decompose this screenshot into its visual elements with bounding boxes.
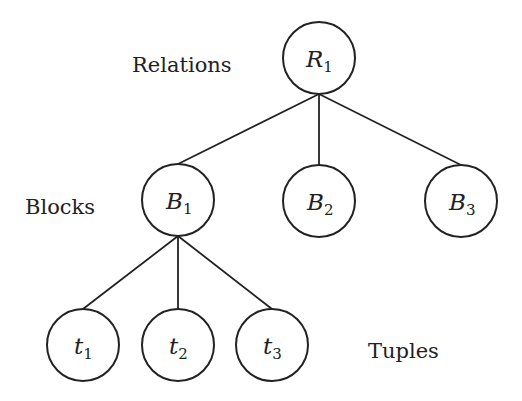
node-t3: t3 xyxy=(236,309,308,381)
edge-b1-t1 xyxy=(83,236,178,309)
level-label-relations: Relations xyxy=(132,53,232,77)
node-subscript: 3 xyxy=(272,345,282,363)
edge-b1-t3 xyxy=(178,236,272,309)
node-b1: B1 xyxy=(142,164,214,236)
node-subscript: 2 xyxy=(178,345,188,363)
node-r1: R1 xyxy=(283,22,355,94)
node-subscript: 2 xyxy=(324,201,334,219)
node-subscript: 1 xyxy=(183,200,193,218)
node-subscript: 1 xyxy=(323,58,333,76)
level-label-blocks: Blocks xyxy=(25,195,95,219)
node-letter: R xyxy=(305,46,323,72)
node-subscript: 1 xyxy=(83,345,93,363)
node-b2: B2 xyxy=(283,165,355,237)
tree-diagram: Relations Blocks Tuples R1 B1 B2 xyxy=(0,0,522,401)
edges xyxy=(83,94,461,309)
node-letter: B xyxy=(165,188,183,214)
node-letter: B xyxy=(306,189,324,215)
level-label-tuples: Tuples xyxy=(368,339,439,363)
node-subscript: 3 xyxy=(466,201,476,219)
edge-r1-b1 xyxy=(178,94,319,164)
edge-r1-b3 xyxy=(319,94,461,165)
node-t1: t1 xyxy=(47,309,119,381)
node-letter: B xyxy=(448,189,466,215)
node-b3: B3 xyxy=(425,165,497,237)
diagram-svg: Relations Blocks Tuples R1 B1 B2 xyxy=(0,0,522,401)
node-t2: t2 xyxy=(142,309,214,381)
